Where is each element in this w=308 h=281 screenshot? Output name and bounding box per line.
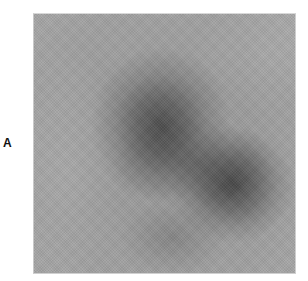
panel-label: A (3, 136, 12, 150)
scan-noise-texture (33, 13, 296, 274)
scan-image (33, 13, 296, 274)
